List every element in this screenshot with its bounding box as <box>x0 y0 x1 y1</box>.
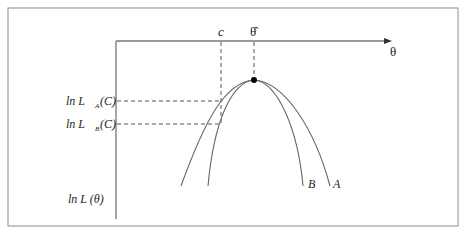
ln-lb-label: ln L B (C) <box>66 117 116 133</box>
c-label: c <box>218 24 224 39</box>
ln-la-label: ln L A (C) <box>66 94 116 110</box>
y-axis-label: ln L (θ) <box>68 192 104 206</box>
likelihood-diagram: θ c θ̂ B A ln L A (C) ln L B (C) ln L (θ… <box>0 0 464 233</box>
curve-b <box>208 80 303 186</box>
theta-hat-label: θ̂ <box>250 24 259 39</box>
svg-text:ln L: ln L <box>66 117 85 131</box>
svg-text:(C): (C) <box>100 117 116 131</box>
svg-text:(C): (C) <box>100 94 116 108</box>
x-axis-label: θ <box>390 44 396 59</box>
maximum-point-dot <box>251 77 257 83</box>
svg-text:ln L: ln L <box>66 94 85 108</box>
curve-b-label: B <box>308 177 316 191</box>
curve-a-label: A <box>332 177 341 191</box>
curve-a <box>181 80 330 186</box>
